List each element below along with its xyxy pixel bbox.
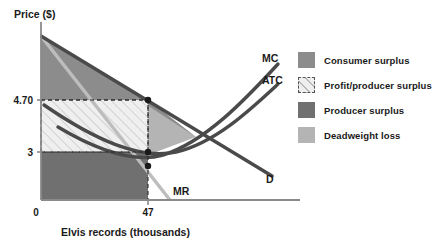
curve-label-d: D (266, 173, 274, 185)
legend-label-producer-surplus: Producer surplus (324, 105, 404, 116)
legend-swatch-deadweight-loss (298, 127, 315, 143)
legend-label-deadweight-loss: Deadweight loss (324, 130, 400, 141)
legend-swatch-producer-surplus (298, 102, 315, 118)
chart-page: Price ($) Elvis records (thousands) 4.70… (0, 0, 445, 241)
x-tick-label-47: 47 (142, 207, 154, 218)
legend-label-profit-producer-surplus: Profit/producer surplus (324, 80, 432, 91)
curve-label-atc: ATC (262, 74, 283, 86)
x-axis-title: Elvis records (thousands) (61, 226, 190, 238)
legend-swatch-consumer-surplus (298, 52, 315, 68)
legend-swatch-profit-producer-surplus (298, 77, 315, 93)
point-monopoly-price (145, 97, 151, 103)
chart-legend: Consumer surplus Profit/producer surplus… (298, 48, 443, 148)
legend-item-consumer-surplus: Consumer surplus (298, 48, 443, 72)
y-tick-label-high: 4.70 (14, 95, 34, 106)
legend-item-producer-surplus: Producer surplus (298, 98, 443, 122)
point-mr-mc-intersection (145, 163, 151, 169)
point-atc-at-q (145, 149, 151, 155)
legend-item-deadweight-loss: Deadweight loss (298, 123, 443, 147)
curve-label-mr: MR (173, 185, 190, 197)
y-tick-label-low: 3 (27, 147, 33, 158)
x-origin-label: 0 (33, 207, 39, 218)
y-axis-title: Price ($) (14, 8, 55, 20)
legend-label-consumer-surplus: Consumer surplus (324, 55, 410, 66)
curve-label-mc: MC (262, 52, 279, 64)
legend-item-profit-producer-surplus: Profit/producer surplus (298, 73, 443, 97)
